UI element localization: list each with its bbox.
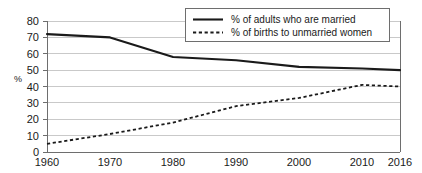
y-tick-label-80: 80 (27, 15, 39, 27)
y-tick-label-40: 40 (27, 81, 39, 93)
y-axis-title: % (14, 74, 22, 84)
x-tick-label-2010: 2010 (350, 156, 374, 168)
x-tick-label-1960: 1960 (35, 156, 59, 168)
legend-label-unmarried-births: % of births to unmarried women (231, 27, 372, 38)
chart-canvas: 80 70 60 50 40 30 20 10 0 % 1960 1970 19… (0, 0, 422, 173)
x-tick-label-1970: 1970 (98, 156, 122, 168)
y-tick-label-30: 30 (27, 97, 39, 109)
legend-label-married: % of adults who are married (231, 14, 356, 25)
line-chart: 80 70 60 50 40 30 20 10 0 % 1960 1970 19… (0, 0, 422, 173)
x-tick-label-1980: 1980 (161, 156, 185, 168)
x-tick-label-2016: 2016 (388, 156, 412, 168)
y-tick-label-20: 20 (27, 113, 39, 125)
y-tick-label-10: 10 (27, 130, 39, 142)
y-tick-label-60: 60 (27, 48, 39, 60)
x-tick-label-1990: 1990 (224, 156, 248, 168)
chart-legend: % of adults who are married % of births … (186, 9, 390, 42)
y-tick-labels: 80 70 60 50 40 30 20 10 0 (27, 15, 39, 158)
y-tick-label-50: 50 (27, 64, 39, 76)
x-tick-label-2000: 2000 (287, 156, 311, 168)
y-tick-label-70: 70 (27, 31, 39, 43)
